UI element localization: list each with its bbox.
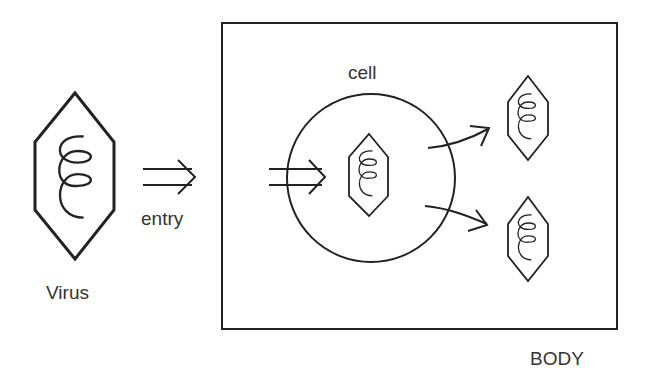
body-label: BODY	[530, 348, 584, 370]
virus-in-cell-icon	[349, 134, 388, 216]
entry-label: entry	[141, 208, 183, 230]
body-box	[222, 23, 617, 329]
cell-entry-arrow-icon	[269, 160, 325, 194]
virus-icon	[35, 93, 114, 259]
virus-label: Virus	[46, 282, 89, 304]
entry-arrow-icon	[143, 160, 195, 194]
released-virus-lower-icon	[508, 197, 548, 281]
cell-label: cell	[348, 62, 377, 84]
released-virus-upper-icon	[508, 76, 548, 160]
diagram-canvas	[0, 0, 646, 387]
exit-arrow-lower-icon	[425, 206, 487, 231]
exit-arrow-upper-icon	[428, 126, 489, 148]
